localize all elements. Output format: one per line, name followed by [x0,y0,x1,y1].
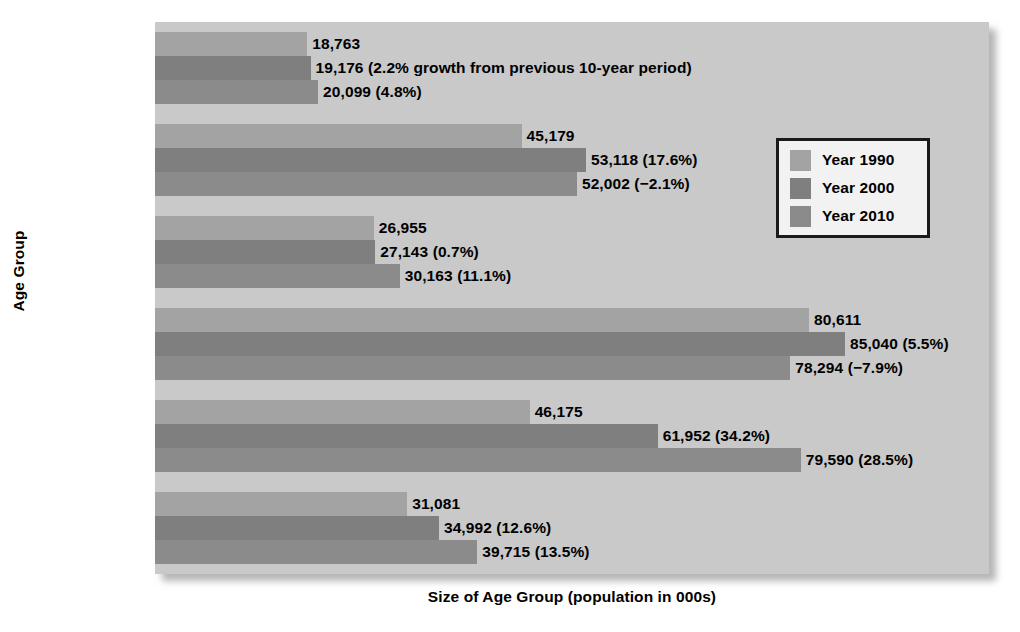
chart-legend: Year 1990Year 2000Year 2010 [776,138,930,238]
bar-row: 20,099 (4.8%) [155,80,989,104]
bar-value-label: 78,294 (−7.9%) [790,359,903,377]
bar-value-label: 27,143 (0.7%) [375,243,479,261]
bar-row: 46,175 [155,400,989,424]
bar-value-label: 61,952 (34.2%) [658,427,770,445]
legend-item-year-2010[interactable]: Year 2010 [790,204,894,228]
bar-year-2010 [155,356,790,380]
bar-group: Under 518,76319,176 (2.2% growth from pr… [155,22,989,114]
legend-label: Year 1990 [822,151,894,169]
bar-chart-figure: Under 518,76319,176 (2.2% growth from pr… [0,0,1020,632]
bar-year-2000 [155,240,375,264]
bar-year-2010 [155,540,477,564]
bar-value-label: 45,179 [522,127,575,145]
bar-value-label: 20,099 (4.8%) [318,83,422,101]
bar-year-1990 [155,308,809,332]
bar-row: 39,715 (13.5%) [155,540,989,564]
bar-row: 78,294 (−7.9%) [155,356,989,380]
bar-year-2010 [155,172,577,196]
bar-value-label: 30,163 (11.1%) [400,267,512,285]
bar-row: 80,611 [155,308,989,332]
bar-year-2000 [155,332,845,356]
bar-year-1990 [155,32,307,56]
bar-year-2000 [155,56,311,80]
bar-row: 18,763 [155,32,989,56]
bar-year-2010 [155,448,801,472]
legend-item-year-2000[interactable]: Year 2000 [790,176,894,200]
bar-row: 85,040 (5.5%) [155,332,989,356]
bar-row: 34,992 (12.6%) [155,516,989,540]
bar-group: 45–6446,17561,952 (34.2%)79,590 (28.5%) [155,390,989,482]
bar-year-1990 [155,216,374,240]
bar-row: 19,176 (2.2% growth from previous 10-yea… [155,56,989,80]
bar-year-1990 [155,124,522,148]
bar-year-1990 [155,492,407,516]
bar-value-label: 46,175 [530,403,583,421]
bar-value-label: 79,590 (28.5%) [801,451,913,469]
bar-value-label: 26,955 [374,219,427,237]
bar-year-2000 [155,516,439,540]
bar-year-2010 [155,264,400,288]
bar-year-2010 [155,80,318,104]
legend-label: Year 2010 [822,207,894,225]
legend-label: Year 2000 [822,179,894,197]
bar-value-label: 80,611 [809,311,861,329]
bar-value-label: 19,176 (2.2% growth from previous 10-yea… [311,59,692,77]
legend-swatch-icon [790,178,811,199]
legend-swatch-icon [790,150,811,171]
bar-row: 30,163 (11.1%) [155,264,989,288]
bar-year-1990 [155,400,530,424]
bar-value-label: 34,992 (12.6%) [439,519,551,537]
bar-group: 65+31,08134,992 (12.6%)39,715 (13.5%) [155,482,989,574]
x-axis-title: Size of Age Group (population in 000s) [155,588,989,606]
legend-item-year-1990[interactable]: Year 1990 [790,148,894,172]
bar-year-2000 [155,424,658,448]
legend-swatch-icon [790,206,811,227]
bar-value-label: 31,081 [407,495,460,513]
bar-group: 25–4480,61185,040 (5.5%)78,294 (−7.9%) [155,298,989,390]
bar-value-label: 39,715 (13.5%) [477,543,589,561]
bar-row: 79,590 (28.5%) [155,448,989,472]
bar-value-label: 85,040 (5.5%) [845,335,949,353]
plot-area: Under 518,76319,176 (2.2% growth from pr… [155,22,989,574]
y-axis-title: Age Group [10,201,28,341]
bar-value-label: 18,763 [307,35,360,53]
bar-row: 27,143 (0.7%) [155,240,989,264]
bar-row: 31,081 [155,492,989,516]
bar-value-label: 52,002 (−2.1%) [577,175,690,193]
bar-year-2000 [155,148,586,172]
bar-value-label: 53,118 (17.6%) [586,151,698,169]
bar-row: 61,952 (34.2%) [155,424,989,448]
